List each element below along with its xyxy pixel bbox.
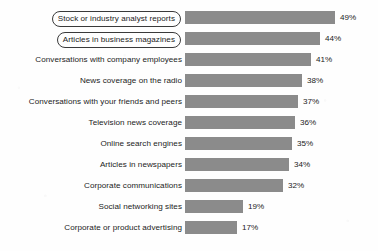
bar (185, 53, 311, 66)
bar (185, 11, 335, 24)
bar (185, 137, 292, 150)
bar (185, 74, 302, 87)
bar (185, 200, 243, 213)
value-label: 36% (300, 116, 316, 129)
chart-row: Conversations with company employees 41% (0, 53, 378, 74)
value-label: 17% (242, 221, 258, 234)
bar (185, 32, 320, 45)
category-label: Social networking sites (99, 200, 182, 213)
value-label: 41% (316, 53, 332, 66)
chart-row: Online search engines 35% (0, 137, 378, 158)
chart-row: Articles in newspapers 34% (0, 158, 378, 179)
value-label: 34% (294, 158, 310, 171)
category-label: Conversations with your friends and peer… (29, 95, 182, 108)
chart-row: Corporate or product advertising 17% (0, 221, 378, 242)
value-label: 32% (288, 179, 304, 192)
chart-row: Social networking sites 19% (0, 200, 378, 221)
bar (185, 179, 283, 192)
value-label: 38% (307, 74, 323, 87)
chart-row: Stock or industry analyst reports 49% (0, 11, 378, 32)
value-label: 35% (297, 137, 313, 150)
chart-row: Conversations with your friends and peer… (0, 95, 378, 116)
category-label: Corporate communications (84, 179, 182, 192)
category-label: News coverage on the radio (80, 74, 182, 87)
bar (185, 158, 289, 171)
chart-row: Television news coverage 36% (0, 116, 378, 137)
chart-row: News coverage on the radio 38% (0, 74, 378, 95)
category-label: Corporate or product advertising (64, 221, 182, 234)
category-label: Television news coverage (89, 116, 182, 129)
value-label: 49% (340, 11, 356, 24)
horizontal-bar-chart: Stock or industry analyst reports 49% Ar… (0, 0, 378, 251)
bar (185, 95, 298, 108)
category-label: Online search engines (100, 137, 182, 150)
value-label: 37% (303, 95, 319, 108)
category-label: Articles in newspapers (100, 158, 182, 171)
chart-row: Articles in business magazines 44% (0, 32, 378, 53)
category-label-highlighted: Articles in business magazines (57, 32, 181, 48)
value-label: 44% (325, 32, 341, 45)
chart-row: Corporate communications 32% (0, 179, 378, 200)
bar (185, 116, 295, 129)
value-label: 19% (248, 200, 264, 213)
bar (185, 221, 237, 234)
category-label: Conversations with company employees (35, 53, 182, 66)
category-label-highlighted: Stock or industry analyst reports (52, 11, 181, 27)
